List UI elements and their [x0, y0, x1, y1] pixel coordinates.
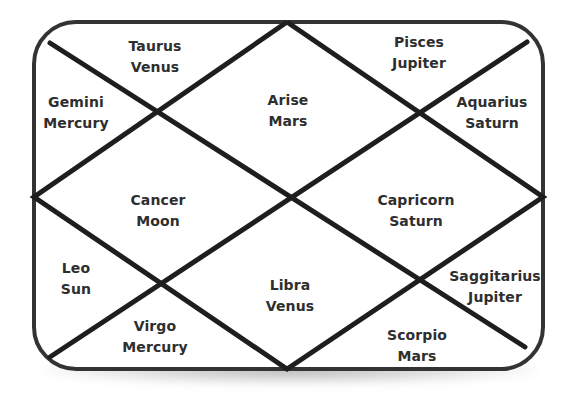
house-leo: Leo Sun: [61, 258, 91, 300]
house-gemini: Gemini Mercury: [43, 92, 108, 134]
birth-chart: Taurus Venus Arise Mars Pisces Jupiter G…: [0, 0, 574, 399]
planet-label: Mercury: [122, 337, 187, 358]
house-taurus: Taurus Venus: [129, 36, 182, 78]
sign-label: Libra: [266, 275, 314, 296]
planet-label: Venus: [129, 57, 182, 78]
house-cancer: Cancer Moon: [131, 190, 186, 232]
sign-label: Scorpio: [387, 325, 447, 346]
house-pisces: Pisces Jupiter: [392, 32, 446, 74]
house-saggitarius: Saggitarius Jupiter: [449, 266, 541, 308]
sign-label: Gemini: [43, 92, 108, 113]
planet-label: Jupiter: [392, 53, 446, 74]
planet-label: Mars: [268, 111, 309, 132]
house-capricorn: Capricorn Saturn: [377, 190, 454, 232]
sign-label: Capricorn: [377, 190, 454, 211]
chart-grid-lines: [0, 0, 574, 399]
sign-label: Arise: [268, 90, 309, 111]
planet-label: Mars: [387, 346, 447, 367]
planet-label: Moon: [131, 211, 186, 232]
house-scorpio: Scorpio Mars: [387, 325, 447, 367]
sign-label: Pisces: [392, 32, 446, 53]
sign-label: Virgo: [122, 316, 187, 337]
sign-label: Taurus: [129, 36, 182, 57]
planet-label: Saturn: [377, 211, 454, 232]
house-virgo: Virgo Mercury: [122, 316, 187, 358]
planet-label: Venus: [266, 296, 314, 317]
house-libra: Libra Venus: [266, 275, 314, 317]
planet-label: Mercury: [43, 113, 108, 134]
house-arise: Arise Mars: [268, 90, 309, 132]
house-aquarius: Aquarius Saturn: [456, 92, 527, 134]
planet-label: Sun: [61, 279, 91, 300]
sign-label: Cancer: [131, 190, 186, 211]
planet-label: Jupiter: [449, 287, 541, 308]
planet-label: Saturn: [456, 113, 527, 134]
sign-label: Leo: [61, 258, 91, 279]
sign-label: Aquarius: [456, 92, 527, 113]
sign-label: Saggitarius: [449, 266, 541, 287]
